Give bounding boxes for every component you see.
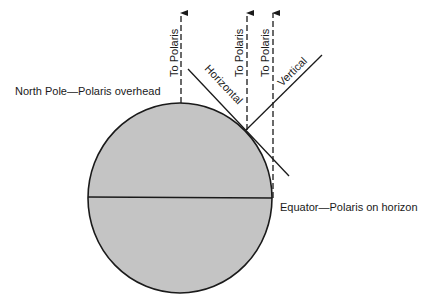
equator-label: Equator—Polaris on horizon (280, 201, 418, 213)
equator-line (88, 197, 272, 198)
to-polaris-label-3: To Polaris (259, 28, 271, 77)
vertical-label: Vertical (275, 55, 309, 89)
polaris-diagram: North Pole—Polaris overhead Equator—Pola… (0, 0, 441, 304)
to-polaris-label-2: To Polaris (233, 28, 245, 77)
vertical-line (246, 55, 322, 130)
to-polaris-label-1: To Polaris (168, 28, 180, 77)
north-pole-label: North Pole—Polaris overhead (15, 85, 161, 97)
